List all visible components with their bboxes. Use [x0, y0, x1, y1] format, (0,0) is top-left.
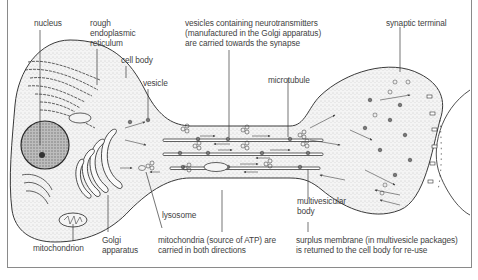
label-mito-transport-2: carried in both directions [158, 245, 246, 255]
label-golgi-1: Golgi [102, 235, 121, 245]
label-synaptic-terminal: synaptic terminal [386, 18, 447, 28]
label-vesicles-2: (manufactured in the Golgi apparatus) [185, 28, 321, 38]
label-rer-2: endoplasmic [90, 28, 135, 38]
label-vesicles-1: vesicles containing neurotransmitters [185, 18, 318, 28]
label-rer-3: reticulum [90, 38, 123, 48]
label-golgi-2: apparatus [102, 245, 138, 255]
label-microtubule: microtubule [268, 75, 310, 85]
label-vesicles-3: are carried towards the synapse [185, 38, 300, 48]
label-mito-transport-1: mitochondria (source of ATP) are [158, 235, 276, 245]
label-cell-body: cell body [121, 55, 153, 65]
label-surplus-2: is returned to the cell body for re-use [296, 245, 427, 255]
label-mitochondrion: mitochondrion [33, 243, 84, 253]
nucleus-shape [21, 121, 69, 169]
label-surplus-1: surplus membrane (in multivesicle packag… [296, 235, 458, 245]
label-rer-1: rough [90, 18, 111, 28]
axon-mitochondrion [204, 163, 228, 172]
label-multivesicular-1: multivesicular [297, 196, 346, 206]
mitochondrion-upper [69, 113, 91, 123]
label-multivesicular-2: body [297, 206, 315, 216]
label-lysosome: lysosome [162, 210, 196, 220]
label-vesicle: vesicle [143, 78, 168, 88]
label-nucleus: nucleus [34, 18, 62, 28]
